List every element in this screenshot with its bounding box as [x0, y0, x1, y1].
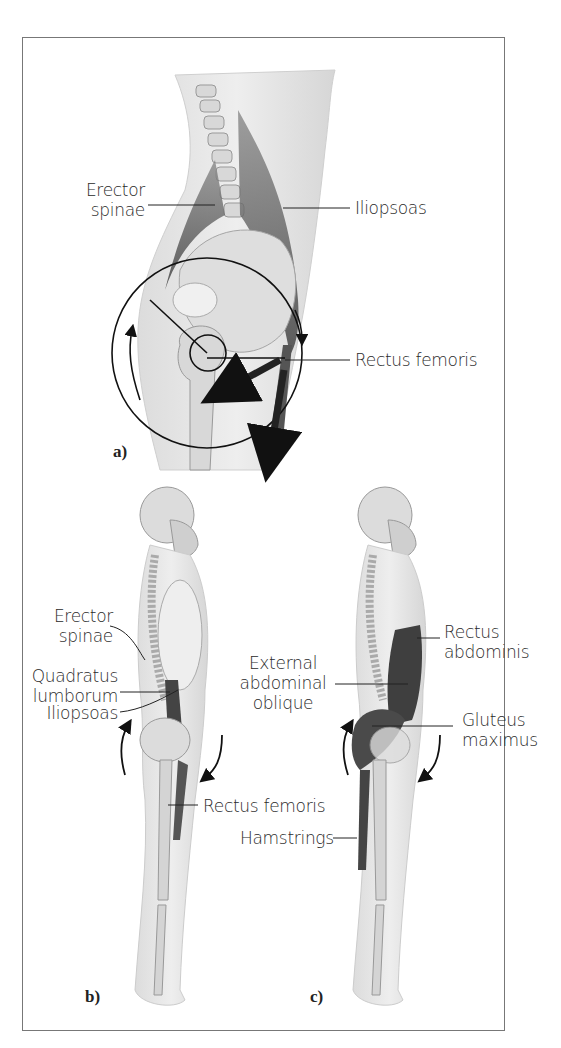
label-text: maximus [462, 730, 538, 750]
panel-a-hip-illustration [112, 70, 350, 470]
label-c-hamstrings: Hamstrings [240, 828, 334, 848]
panel-tag-a: a) [113, 442, 127, 462]
label-b-quadratus-lumborum: Quadratus lumborum [20, 666, 118, 706]
label-text: spinae [60, 200, 145, 220]
label-text: Rectus [444, 622, 529, 642]
label-text: Gluteus [462, 710, 538, 730]
label-b-rectus-femoris: Rectus femoris [203, 796, 325, 816]
panel-tag-c: c) [310, 987, 323, 1007]
panel-c-figure-illustration [333, 487, 453, 1005]
label-text: External [228, 653, 338, 673]
label-b-erector-spinae: Erector spinae [20, 606, 113, 646]
label-text: abdominis [444, 642, 529, 662]
label-a-erector-spinae: Erector spinae [60, 180, 145, 220]
label-b-iliopsoas: Iliopsoas [20, 703, 118, 723]
label-text: Erector [60, 180, 145, 200]
figure-illustration [0, 0, 561, 1048]
label-text: spinae [20, 626, 113, 646]
label-c-rectus-abdominis: Rectus abdominis [444, 622, 529, 662]
label-text: abdominal [228, 673, 338, 693]
label-c-external-abdominal-oblique: External abdominal oblique [228, 653, 338, 713]
label-text: Erector [20, 606, 113, 626]
label-a-rectus-femoris: Rectus femoris [355, 350, 477, 370]
panel-tag-b: b) [85, 987, 100, 1007]
label-c-gluteus-maximus: Gluteus maximus [462, 710, 538, 750]
label-a-iliopsoas: Iliopsoas [355, 198, 426, 218]
label-text: oblique [228, 693, 338, 713]
label-text: Quadratus [20, 666, 118, 686]
panel-b-figure-illustration [110, 487, 222, 1005]
